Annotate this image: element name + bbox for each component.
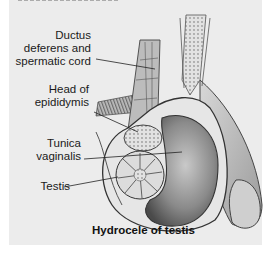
label-testis: Testis	[41, 180, 70, 193]
label-ductus-deferens: Ductus deferens and spermatic cord	[16, 29, 91, 68]
epididymis-head	[124, 125, 162, 151]
label-head-of-epididymis: Head of epididymis	[35, 83, 89, 109]
figure-caption: Hydrocele of testis	[92, 224, 195, 236]
label-tunica-vaginalis: Tunica vaginalis	[36, 137, 81, 163]
testis-shape	[116, 151, 164, 199]
